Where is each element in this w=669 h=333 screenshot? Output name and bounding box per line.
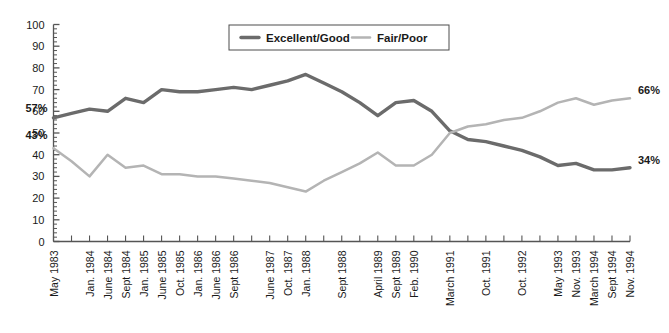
value-annotations: 57%43%66%34% (25, 84, 660, 165)
x-axis-tick-label: Nov. 1993 (570, 250, 582, 297)
y-axis-tick-label: 100 (26, 19, 44, 31)
x-axis-tick-label: Jan. 1986 (192, 250, 204, 296)
x-axis-tick-label: June 1984 (102, 250, 114, 299)
x-axis-tick-label: June 1987 (264, 250, 276, 299)
data-series-group (54, 74, 631, 191)
x-axis-tick-label: May 1993 (552, 250, 564, 296)
x-axis-tick-label: Sept 1986 (228, 250, 240, 298)
x-axis-tick-label: Feb. 1990 (408, 250, 420, 297)
legend-label-fair-poor: Fair/Poor (377, 32, 428, 44)
annotation-start-fair-poor: 43% (25, 129, 47, 141)
y-axis-tick-label: 20 (32, 192, 44, 204)
line-chart: 0102030405060708090100 May 1983Jan. 1984… (0, 0, 669, 333)
x-axis-tick-label: April 1989 (372, 250, 384, 297)
x-axis-tick-label: Oct. 1987 (282, 250, 294, 296)
x-axis-tick-label: Nov. 1994 (624, 250, 636, 297)
x-axis-tick-label: March 1994 (588, 250, 600, 306)
x-axis-tick-label: Sept 1989 (390, 250, 402, 298)
y-axis-tick-label: 90 (32, 40, 44, 52)
x-axis-tick-label: Jan. 1984 (84, 250, 96, 296)
x-axis-tick-label: May 1983 (48, 250, 60, 296)
y-axis-tick-label: 0 (38, 236, 44, 248)
x-axis-tick-label: Oct. 1985 (174, 250, 186, 296)
x-axis-tick-label: Jan. 1985 (138, 250, 150, 296)
y-axis-tick-label: 80 (32, 62, 44, 74)
x-axis-tick-label: Sept 1994 (606, 250, 618, 298)
y-axis-tick-label: 30 (32, 170, 44, 182)
series-line-fair-poor (54, 98, 631, 191)
x-axis-tick-label: Jan. 1988 (300, 250, 312, 296)
annotation-end-excellent-good: 34% (638, 154, 660, 166)
chart-legend: Excellent/GoodFair/Poor (229, 25, 449, 50)
x-axis-tick-label: Oct. 1991 (480, 250, 492, 296)
x-axis-tick-label: March 1991 (444, 250, 456, 306)
legend-label-excellent-good: Excellent/Good (266, 32, 350, 44)
y-axis-tick-label: 40 (32, 149, 44, 161)
annotation-end-fair-poor: 66% (638, 84, 660, 96)
x-axis-tick-label: Oct. 1992 (516, 250, 528, 296)
x-axis: May 1983Jan. 1984June 1984Sept 1984Jan. … (48, 236, 637, 306)
series-line-excellent-good (54, 74, 631, 169)
annotation-start-excellent-good: 57% (25, 102, 47, 114)
y-axis-tick-label: 70 (32, 84, 44, 96)
x-axis-tick-label: Sept 1984 (120, 250, 132, 298)
x-axis-tick-label: Sept 1988 (336, 250, 348, 298)
chart-canvas: 0102030405060708090100 May 1983Jan. 1984… (0, 0, 669, 333)
x-axis-tick-label: June 1985 (156, 250, 168, 299)
y-axis-tick-label: 10 (32, 214, 44, 226)
x-axis-tick-label: June 1986 (210, 250, 222, 299)
